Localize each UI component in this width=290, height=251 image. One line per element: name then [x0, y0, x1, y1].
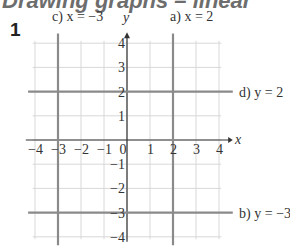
graph: −4−3−2−1012344321−1−2−3−4xyc) x = −3a) x… — [0, 0, 290, 251]
x-tick-label: −3 — [51, 142, 66, 157]
y-tick-label: −1 — [110, 157, 125, 172]
label-d: d) y = 2 — [239, 85, 283, 101]
y-axis-label: y — [121, 10, 130, 25]
x-tick-label: 3 — [193, 142, 200, 157]
label-c: c) x = −3 — [52, 9, 103, 25]
x-tick-label: 4 — [216, 142, 223, 157]
x-tick-label: 2 — [170, 142, 177, 157]
x-tick-label: 0 — [120, 142, 127, 157]
x-tick-label: −4 — [28, 142, 43, 157]
y-tick-label: −4 — [110, 230, 125, 245]
label-b: b) y = −3 — [239, 206, 290, 222]
label-a: a) x = 2 — [170, 9, 213, 25]
x-tick-label: −2 — [74, 142, 89, 157]
y-tick-label: −2 — [110, 181, 125, 196]
y-tick-label: 2 — [118, 85, 125, 100]
y-tick-label: 1 — [118, 109, 125, 124]
x-axis-arrow-icon — [228, 137, 233, 143]
x-tick-label: 1 — [147, 142, 154, 157]
y-tick-label: 4 — [118, 36, 125, 51]
y-tick-label: −3 — [110, 206, 125, 221]
y-tick-label: 3 — [118, 60, 125, 75]
x-axis-label: x — [234, 132, 242, 147]
x-tick-label: −1 — [97, 142, 112, 157]
